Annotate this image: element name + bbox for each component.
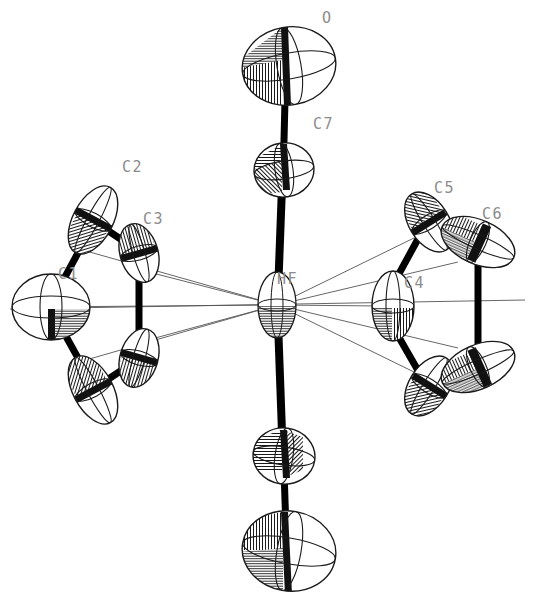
ortep-figure: O C7 C2 C3 C5 C6 C1 HF C4 [0,0,535,610]
atom-label-C5: C5 [434,181,455,196]
atom-label-C1: C1 [58,267,79,282]
atom-label-C7: C7 [313,117,334,132]
contact-line-hf-c6a [277,305,458,348]
atom-label-O: O [322,11,333,26]
contact-line-hf-c6 [277,262,458,305]
atom-ellipsoid-C3 [105,218,175,290]
atom-ellipsoid-C3a [105,322,175,394]
atom-label-C3: C3 [143,212,164,227]
ortep-canvas [0,0,535,610]
atom-ellipsoid-C7a [249,424,320,489]
atom-label-C6: C6 [482,207,503,222]
atom-label-hf: HF [277,272,298,287]
atom-ellipsoid-C7 [250,139,320,202]
contact-line-hf-c2a [72,305,277,364]
atom-ellipsoid-C1 [10,272,95,344]
atom-ellipsoid-O [236,19,342,120]
atom-ellipsoid-Oa [236,503,342,605]
atom-label-C2: C2 [122,160,143,175]
atom-label-C4: C4 [404,276,425,291]
contact-line-hf-c2 [72,247,277,305]
